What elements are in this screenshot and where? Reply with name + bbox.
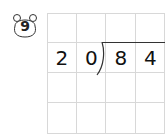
division-bar: [102, 42, 165, 43]
divisor-digit-tens: 2: [47, 43, 77, 73]
grid-cell[interactable]: [77, 73, 107, 103]
grid-cell[interactable]: [136, 103, 166, 134]
dividend-digit-tens: 8: [106, 43, 136, 73]
problem-number: 9: [11, 17, 39, 35]
grid-cell[interactable]: [77, 13, 107, 43]
grid-cell[interactable]: [136, 73, 166, 103]
division-bracket-icon: [95, 42, 105, 76]
grid-cell[interactable]: [106, 13, 136, 43]
grid-cell[interactable]: [47, 103, 77, 134]
grid-cell[interactable]: [106, 73, 136, 103]
grid-cell[interactable]: [77, 103, 107, 134]
grid-cell[interactable]: [47, 73, 77, 103]
grid-cell[interactable]: [47, 13, 77, 43]
grid-cell[interactable]: [136, 13, 166, 43]
grid-cell[interactable]: [106, 103, 136, 134]
answer-grid: 2 0 8 4: [47, 13, 165, 134]
dividend-digit-ones: 4: [136, 43, 166, 73]
